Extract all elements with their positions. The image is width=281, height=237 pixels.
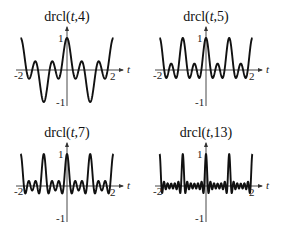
x-tick-2: 2: [110, 70, 116, 82]
x-tick-neg2: -2: [153, 69, 162, 81]
y-tick-neg1: -1: [56, 96, 65, 108]
x-tick-2: 2: [249, 70, 255, 82]
x-axis-label: t: [266, 63, 270, 75]
x-tick-neg2: -2: [14, 69, 23, 81]
plot-title: drcl(t,5): [183, 9, 229, 25]
y-tick-1: 1: [58, 32, 64, 44]
plot-panel-n7: drcl(t,7) -2 2 t 1 -1: [14, 125, 131, 224]
x-tick-neg2: -2: [14, 185, 23, 197]
y-tick-1: 1: [58, 148, 64, 160]
x-tick-neg2: -2: [153, 185, 162, 197]
dirichlet-kernel-figure: drcl(t,4) -2 2 t 1 -1 drcl(t,5) -2 2 t 1…: [0, 0, 281, 237]
x-axis-label: t: [127, 179, 131, 191]
plot-panel-n5: drcl(t,5) -2 2 t 1 -1: [153, 9, 270, 108]
y-tick-1: 1: [197, 32, 203, 44]
y-tick-neg1: -1: [195, 96, 204, 108]
x-tick-2: 2: [110, 186, 116, 198]
plot-title: drcl(t,13): [180, 125, 233, 141]
y-tick-neg1: -1: [56, 212, 65, 224]
plot-panel-n13: drcl(t,13) -2 2 t 1 -1: [153, 125, 270, 224]
x-tick-2: 2: [249, 186, 255, 198]
plot-title: drcl(t,4): [44, 9, 90, 25]
y-tick-1: 1: [197, 148, 203, 160]
x-axis-label: t: [127, 63, 131, 75]
x-axis-label: t: [266, 179, 270, 191]
plot-title: drcl(t,7): [44, 125, 90, 141]
plot-panel-n4: drcl(t,4) -2 2 t 1 -1: [14, 9, 131, 108]
y-tick-neg1: -1: [195, 212, 204, 224]
